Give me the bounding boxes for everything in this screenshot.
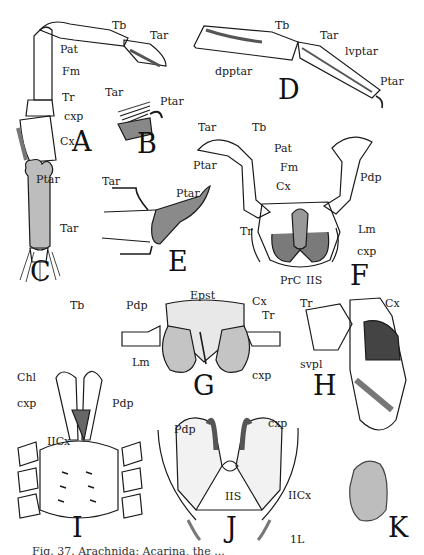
label-d-dpptar: dpptar [215,66,252,77]
label-b-ptar: Ptar [160,96,184,107]
label-g-cxp: cxp [252,370,271,381]
label-f-iis: IIS [306,275,322,286]
panel-i-drawing [18,371,142,518]
label-f-pdp: Pdp [360,172,381,183]
label-e-ptar: Ptar [176,188,200,199]
panel-label-j: J [226,514,237,541]
label-f-tr: Tr [240,226,253,237]
label-j-iis: IIS [225,491,241,502]
label-d-tar: Tar [320,30,338,41]
label-g-pdp: Pdp [126,300,147,311]
panel-label-f: F [350,262,369,289]
label-h-svpl: svpl [300,359,322,370]
label-e-tar: Tar [102,176,120,187]
label-g-lm: Lm [132,357,150,368]
label-c-tar: Tar [60,223,78,234]
label-f-lm: Lm [358,224,376,235]
label-j-pdp: Pdp [174,424,195,435]
label-a-cx: Cx [60,136,75,147]
panel-label-k: K [388,514,408,541]
label-c-tb: Tb [70,300,84,311]
panel-label-d: D [278,76,300,103]
label-g-epst: Epst [190,290,215,301]
label-a-tr: Tr [62,92,75,103]
figure-plate: A B C D E F G H I J K Tb Tar Pat Fm Tr c… [0,0,424,555]
panel-f-drawing [198,137,372,267]
figure-caption: Fig. 37. Arachnida: Acarina, the ... [32,545,225,555]
label-f-ptar: Ptar [193,160,217,171]
label-j-cxp: cxp [268,418,287,429]
label-d-ptar: Ptar [380,76,404,87]
panel-label-i: I [72,514,83,541]
label-i-chl: Chl [17,372,36,383]
label-f-tar: Tar [198,122,216,133]
label-i-pdp: Pdp [112,398,133,409]
label-g-tr: Tr [262,310,275,321]
label-a-tb: Tb [112,20,126,31]
label-h-tr: Tr [300,298,313,309]
panel-label-e: E [168,248,188,275]
label-j-iicx: IICx [288,490,311,501]
panel-label-h: H [313,372,337,399]
label-h-cx: Cx [385,298,400,309]
label-j-1l: 1L [290,534,304,545]
label-f-cx: Cx [276,181,291,192]
label-a-pat: Pat [60,44,78,55]
label-f-fm: Fm [280,162,298,173]
label-c-ptar: Ptar [36,174,60,185]
panel-k-drawing [350,461,387,521]
label-b-tar: Tar [105,87,123,98]
label-f-cxp: cxp [357,246,376,257]
panel-label-c: C [30,258,51,285]
panel-label-g: G [193,372,215,399]
label-i-iicx: IICx [47,436,70,447]
label-d-tb: Tb [275,20,289,31]
label-f-pat: Pat [274,143,292,154]
panel-label-b: B [137,130,157,157]
label-a-tar: Tar [150,30,168,41]
label-g-cx: Cx [252,296,267,307]
label-a-cxp: cxp [64,111,83,122]
label-a-fm: Fm [62,66,80,77]
label-i-cxp: cxp [17,398,36,409]
label-d-lvptar: lvptar [345,46,378,57]
label-f-prc: PrC [280,275,301,286]
label-f-tb: Tb [252,122,266,133]
